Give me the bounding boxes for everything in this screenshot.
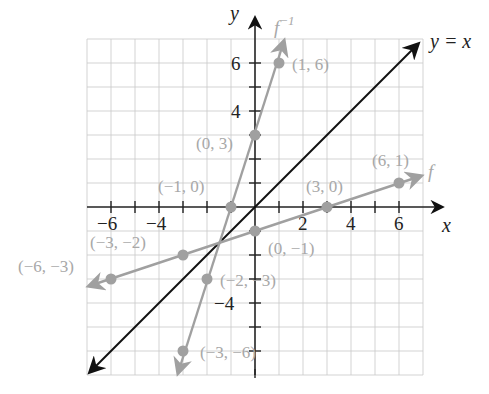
y-tick-label: −4 bbox=[214, 293, 235, 314]
f-inverse-label: f−1 bbox=[274, 13, 295, 38]
point-label: (−3, −2) bbox=[90, 233, 146, 252]
x-tick-label: 4 bbox=[346, 213, 356, 234]
identity-label: y = x bbox=[428, 30, 471, 53]
chart-canvas: −6 −4 2 4 6 6 4 −4 x y y = x f f−1 (−6, … bbox=[0, 0, 489, 394]
y-axis-label: y bbox=[228, 2, 239, 25]
x-tick-label: −4 bbox=[146, 213, 167, 234]
point-label: (1, 6) bbox=[292, 55, 329, 74]
x-axis-label: x bbox=[441, 214, 451, 236]
f-label: f bbox=[428, 161, 436, 182]
point-label: (−2, −3) bbox=[220, 271, 276, 290]
point-label: (3, 0) bbox=[306, 177, 343, 196]
point-label: (0, −1) bbox=[268, 239, 314, 258]
point-label: (−1, 0) bbox=[158, 177, 204, 196]
x-tick-label: −6 bbox=[97, 213, 117, 234]
point-label: (−6, −3) bbox=[18, 257, 74, 276]
point-label: (0, 3) bbox=[196, 134, 233, 153]
x-tick-label: 6 bbox=[394, 213, 404, 234]
point-label: (6, 1) bbox=[372, 151, 409, 170]
y-tick-label: 4 bbox=[231, 101, 241, 122]
y-tick-label: 6 bbox=[231, 53, 241, 74]
point-label: (−3, −6) bbox=[200, 343, 256, 362]
identity-line bbox=[90, 44, 418, 372]
